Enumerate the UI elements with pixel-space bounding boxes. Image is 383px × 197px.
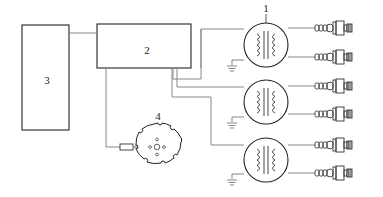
ground-icon bbox=[227, 66, 237, 71]
spark-plug-connector bbox=[315, 166, 352, 180]
block-3: 3 bbox=[22, 25, 69, 130]
system-diagram: 3 2 1 bbox=[0, 0, 383, 197]
wire-2-to-t3 bbox=[172, 68, 244, 145]
wire-2-to-t1 bbox=[201, 29, 244, 68]
block-2-label: 2 bbox=[144, 44, 150, 56]
rotor-4: 4 bbox=[120, 110, 182, 164]
spark-plug-connector bbox=[315, 79, 352, 93]
spark-plug-connector bbox=[315, 21, 352, 35]
transformer-1: 1 bbox=[227, 2, 352, 71]
block-2: 2 bbox=[97, 24, 191, 68]
ground-icon bbox=[227, 123, 237, 128]
transformer-1-label: 1 bbox=[263, 2, 269, 14]
sensor bbox=[120, 144, 133, 150]
rotor-4-label: 4 bbox=[155, 110, 161, 122]
spark-plug-connector bbox=[315, 138, 352, 152]
transformer-3 bbox=[227, 138, 352, 185]
transformer-2 bbox=[227, 79, 352, 128]
spark-plug-connector bbox=[315, 50, 352, 64]
ground-icon bbox=[227, 180, 237, 185]
wire-2-to-4 bbox=[106, 68, 120, 147]
block-3-label: 3 bbox=[44, 74, 50, 86]
spark-plug-connector bbox=[315, 107, 352, 121]
